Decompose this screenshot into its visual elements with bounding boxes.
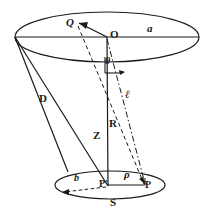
label-rho: ρ [124, 169, 130, 180]
label-R: R [109, 118, 117, 129]
arrowhead-b [62, 189, 69, 195]
label-P: P [145, 180, 151, 190]
label-ell: ℓ [125, 89, 130, 100]
geometry-figure: Q O a θ D ℓ R Z b P′ ρ P S [0, 0, 211, 213]
label-a: a [147, 23, 153, 34]
label-O: O [110, 29, 119, 40]
label-b: b [74, 173, 79, 183]
label-D: D [39, 93, 47, 104]
label-P-prime: P′ [99, 179, 108, 189]
label-Z: Z [93, 130, 100, 141]
arrowhead-Q [79, 22, 88, 29]
theta-arrowhead [119, 70, 125, 75]
label-theta: θ [105, 56, 110, 66]
label-S: S [110, 197, 116, 208]
ray-R-dashed [78, 26, 144, 184]
cone-slant-line-left [15, 37, 68, 172]
label-Q: Q [66, 17, 74, 28]
